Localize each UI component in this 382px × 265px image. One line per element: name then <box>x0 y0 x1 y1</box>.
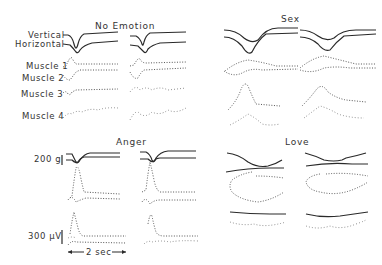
anger-traces <box>62 151 198 254</box>
emg-traces-graphic <box>0 0 382 265</box>
love-traces <box>226 153 368 228</box>
no-emotion-traces <box>63 32 186 120</box>
sex-traces <box>224 28 376 125</box>
